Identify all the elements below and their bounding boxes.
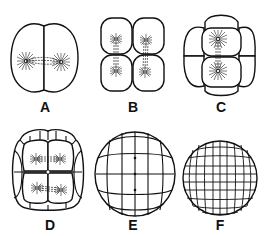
panel-f — [183, 141, 257, 215]
panel-label-c: C — [216, 99, 226, 115]
cleavage-diagram: A B C — [0, 0, 266, 236]
panel-d — [13, 130, 84, 211]
panel-a — [11, 24, 78, 92]
panel-label-d: D — [45, 217, 55, 233]
panel-label-b: B — [128, 99, 138, 115]
panel-label-f: F — [216, 217, 225, 233]
panel-b — [101, 18, 164, 91]
panel-label-e: E — [128, 217, 137, 233]
panel-c — [184, 15, 255, 95]
panel-e — [95, 132, 175, 216]
panel-label-a: A — [40, 99, 50, 115]
